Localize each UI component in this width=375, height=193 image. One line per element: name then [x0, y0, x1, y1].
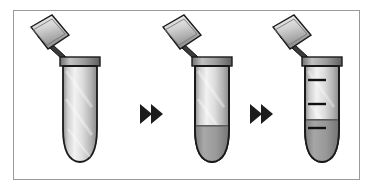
tube-step-2-lid — [163, 15, 201, 49]
tube-step-3-rim — [302, 57, 342, 66]
tube-step-3-lid — [273, 15, 311, 49]
tube-step-1-lid — [31, 15, 69, 49]
figure-canvas: Microcentrifuge tube protocol sequence E… — [0, 0, 375, 193]
tube-step-1-rim — [60, 57, 100, 66]
tube-step-2-rim — [192, 57, 232, 66]
tube-step-2: Tube containing sample at bottom — [154, 11, 272, 181]
tube-step-3-contents — [302, 119, 342, 167]
figure-frame: Empty tube, lid open — [13, 10, 360, 180]
tube-step-2-contents — [192, 125, 232, 167]
tube-step-1-body — [63, 66, 97, 162]
tube-step-1: Empty tube, lid open — [22, 11, 140, 181]
tube-step-3: Graduated tube with liquid — [264, 11, 375, 181]
